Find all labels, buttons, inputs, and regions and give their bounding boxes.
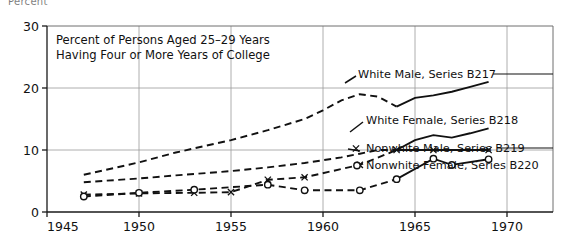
- data-point-marker-circle: [191, 186, 197, 192]
- x-tick-label-1945: 1945: [47, 219, 79, 234]
- series-line-1-dashed: [84, 94, 397, 175]
- chart-title: Percent of Persons Aged 25–29 YearsHavin…: [56, 33, 270, 62]
- y-tick-label-30: 30: [23, 19, 39, 34]
- data-point-marker-circle: [136, 190, 142, 196]
- chart-title-line-2: Having Four or More Years of College: [56, 48, 270, 62]
- y-tick-label-20: 20: [23, 81, 39, 96]
- legend-label-series-2: White Female, Series B218: [366, 114, 518, 127]
- legend-label-series-4: Nonwhite Female, Series B220: [366, 159, 539, 172]
- x-tick-label-1960: 1960: [307, 219, 339, 234]
- data-point-marker-circle: [301, 187, 307, 193]
- series-line-4-dashed: [84, 179, 397, 196]
- series-line-1-solid: [397, 82, 489, 107]
- figure-chart: Percent 0102030194519501955196019651970P…: [0, 0, 568, 247]
- series-line-2-dashed: [84, 150, 397, 182]
- series-2: [84, 128, 489, 182]
- data-point-marker-circle: [357, 187, 363, 193]
- y-tick-label-0: 0: [31, 205, 39, 220]
- legend-leader-1: [345, 76, 356, 83]
- data-point-marker-circle: [393, 176, 399, 182]
- x-tick-label-1970: 1970: [491, 219, 523, 234]
- data-point-marker-circle: [81, 193, 87, 199]
- chart-canvas: 0102030194519501955196019651970Percent o…: [0, 0, 568, 247]
- x-tick-label-1965: 1965: [399, 219, 431, 234]
- legend-marker-circle: [354, 162, 360, 168]
- legend-label-series-1: White Male, Series B217: [358, 68, 496, 81]
- data-point-marker-circle: [265, 182, 271, 188]
- x-tick-label-1950: 1950: [123, 219, 155, 234]
- legend-leader-2: [350, 122, 363, 132]
- y-tick-label-10: 10: [23, 143, 39, 158]
- chart-title-line-1: Percent of Persons Aged 25–29 Years: [56, 33, 270, 47]
- x-tick-label-1955: 1955: [215, 219, 247, 234]
